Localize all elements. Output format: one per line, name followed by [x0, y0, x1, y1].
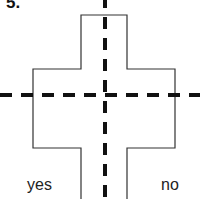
- cross-figure: [0, 0, 200, 199]
- option-yes[interactable]: yes: [27, 176, 52, 194]
- option-no[interactable]: no: [161, 176, 179, 194]
